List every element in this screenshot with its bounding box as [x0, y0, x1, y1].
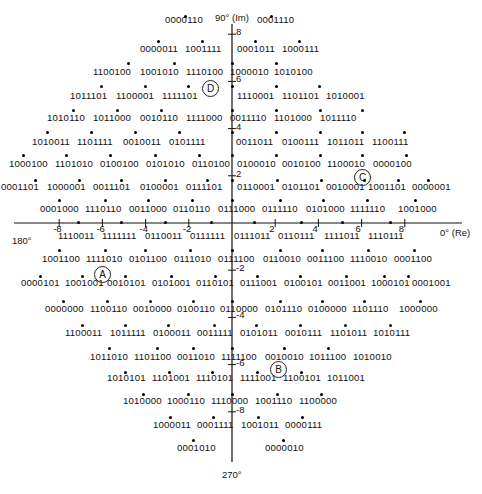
symbol-code-label: 0101110: [265, 304, 302, 314]
symbol-code-label: 1101000: [274, 113, 312, 123]
symbol-code-label: 0011011: [236, 137, 273, 147]
symbol-code-label: 0110100: [192, 159, 230, 169]
constellation-point: [366, 199, 369, 202]
constellation-point: [300, 221, 303, 224]
symbol-code-label: 1100010: [327, 159, 365, 169]
symbol-code-label: 1111110: [350, 204, 385, 214]
constellation-point: [403, 131, 406, 134]
marker-a: A: [94, 266, 111, 283]
constellation-point: [231, 154, 234, 157]
symbol-code-label: 0010010: [265, 352, 304, 362]
symbol-code-label: 0001010: [177, 443, 216, 453]
symbol-code-label: 1011011: [327, 137, 364, 147]
symbol-code-label: 1100111: [372, 137, 409, 147]
constellation-point: [46, 131, 49, 134]
constellation-point: [144, 249, 147, 252]
constellation-point: [77, 221, 80, 224]
symbol-code-label: 0001100: [394, 254, 432, 264]
symbol-code-label: 0010100: [282, 159, 321, 169]
symbol-code-label: 0110101: [196, 278, 234, 288]
symbol-code-label: 0000110: [165, 15, 203, 25]
symbol-code-label: 1010100: [274, 67, 313, 77]
symbol-code-label: 1000100: [9, 159, 48, 169]
symbol-code-label: 0100100: [100, 159, 139, 169]
constellation-point: [279, 249, 282, 252]
symbol-code-label: 1001100: [42, 254, 80, 264]
symbol-code-label: 0100111: [282, 137, 319, 147]
constellation-point: [147, 199, 150, 202]
symbol-code-label: 0111010: [174, 254, 211, 264]
symbol-code-label: 1011100: [309, 352, 346, 362]
symbol-code-label: 0101010: [146, 159, 185, 169]
symbol-code-label: 1101100: [134, 352, 171, 362]
constellation-point: [367, 249, 370, 252]
symbol-code-label: 1001010: [140, 67, 179, 77]
constellation-point: [100, 85, 103, 88]
symbol-code-label: 1000111: [282, 44, 319, 54]
symbol-code-label: 1000001: [47, 182, 86, 192]
symbol-code-label: 1100001: [116, 91, 154, 101]
constellation-point: [275, 131, 278, 134]
symbol-code-label: 1110101: [196, 373, 233, 383]
constellation-point: [275, 62, 278, 65]
symbol-code-label: 0101000: [306, 204, 345, 214]
constellation-point: [22, 154, 25, 157]
constellation-point: [189, 249, 192, 252]
symbol-code-label: 0000001: [412, 182, 451, 192]
symbol-code-label: 1010101: [107, 373, 146, 383]
constellation-point: [192, 347, 195, 350]
symbol-code-label: 1100000: [299, 396, 337, 406]
symbol-code-label: 1000101: [371, 278, 410, 288]
constellation-point: [173, 62, 176, 65]
symbol-code-label: 1111101: [162, 91, 198, 101]
symbol-code-label: 0100110: [177, 304, 215, 314]
symbol-code-label: 0001001: [412, 278, 451, 288]
axis-label-top: 90° (Im): [215, 13, 249, 23]
symbol-code-label: 0110011: [145, 231, 182, 241]
symbol-code-label: 0111000: [218, 204, 255, 214]
constellation-point: [283, 347, 286, 350]
symbol-code-label: 1011000: [93, 113, 131, 123]
symbol-code-label: 1101010: [55, 159, 93, 169]
symbol-code-label: 1111010: [86, 254, 123, 264]
symbol-code-label: 1101111: [77, 137, 113, 147]
symbol-code-label: 0100010: [237, 159, 276, 169]
constellation-point: [279, 199, 282, 202]
constellation-point: [361, 131, 364, 134]
constellation-point: [321, 249, 324, 252]
symbol-code-label: 0110000: [220, 304, 258, 314]
constellation-point: [104, 199, 107, 202]
constellation-point: [231, 131, 234, 134]
constellation-point: [231, 62, 234, 65]
symbol-code-label: 0010110: [140, 113, 178, 123]
symbol-code-label: 1111111: [102, 231, 136, 241]
symbol-code-label: 0110111: [278, 231, 315, 241]
symbol-code-label: 1110010: [350, 254, 387, 264]
symbol-code-label: 0101100: [129, 254, 167, 264]
constellation-point: [134, 131, 137, 134]
symbol-code-label: 1001111: [185, 44, 222, 54]
symbol-code-label: 0110001: [237, 182, 275, 192]
constellation-point: [109, 154, 112, 157]
symbol-code-label: 0111100: [218, 254, 255, 264]
symbol-code-label: 1110110: [85, 204, 122, 214]
symbol-code-label: 0001011: [237, 44, 275, 54]
axis-label-left: 180°: [12, 236, 32, 246]
symbol-code-label: 0101001: [152, 278, 191, 288]
constellation-point: [58, 199, 61, 202]
constellation-point: [120, 221, 123, 224]
axis-label-bottom: 270°: [222, 470, 242, 480]
constellation-point: [104, 249, 107, 252]
symbol-code-label: 1011001: [327, 373, 365, 383]
symbol-code-label: 0000111: [285, 420, 322, 430]
symbol-code-label: 1101001: [152, 373, 190, 383]
constellation-point: [361, 154, 364, 157]
symbol-code-label: 1000000: [399, 304, 438, 314]
y-tick-label: 2: [236, 169, 241, 179]
constellation-point: [231, 85, 234, 88]
symbol-code-label: 1010111: [373, 328, 410, 338]
symbol-code-label: 0111110: [262, 204, 298, 214]
symbol-code-label: 1010011: [32, 137, 70, 147]
symbol-code-label: 1011111: [110, 328, 146, 338]
symbol-code-label: 1110000: [211, 396, 248, 406]
